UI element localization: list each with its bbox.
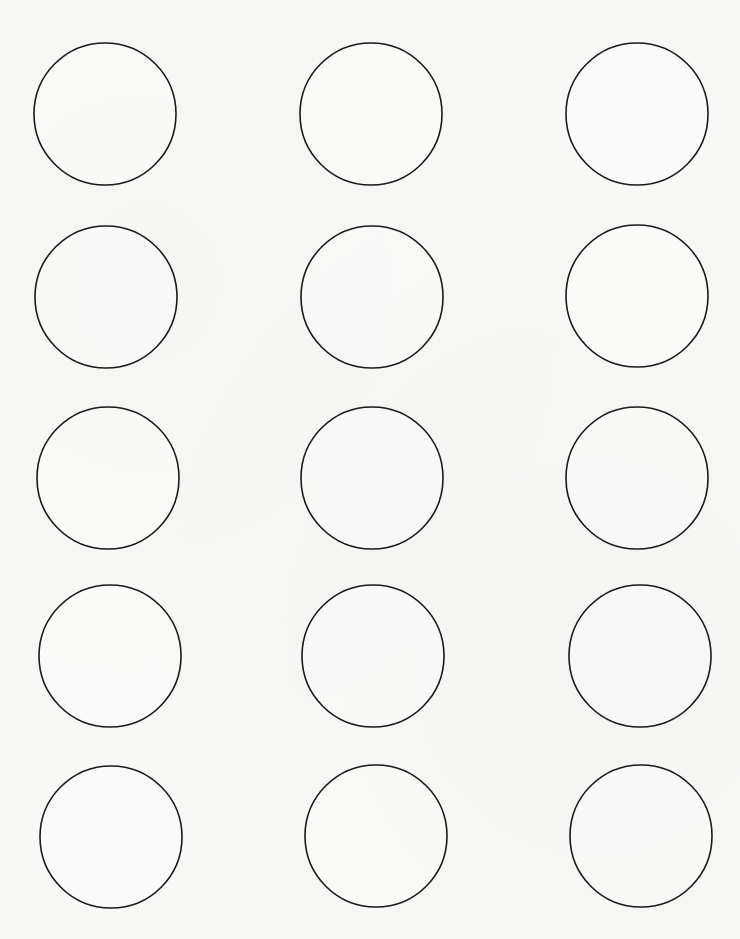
round-label-r4-c1	[39, 585, 181, 727]
round-label-r1-c2	[300, 43, 442, 185]
round-label-r2-c2	[301, 226, 443, 368]
round-label-r4-c2	[302, 585, 444, 727]
round-label-r3-c1	[37, 407, 179, 549]
round-label-r5-c1	[40, 766, 182, 908]
round-label-r4-c3	[569, 585, 711, 727]
round-label-r2-c1	[35, 226, 177, 368]
label-grid	[0, 0, 740, 939]
round-label-layer	[34, 43, 712, 908]
round-label-r5-c2	[305, 765, 447, 907]
label-sheet-page	[0, 0, 740, 939]
round-label-r5-c3	[570, 765, 712, 907]
round-label-r3-c3	[566, 407, 708, 549]
round-label-r1-c1	[34, 43, 176, 185]
round-label-r2-c3	[566, 225, 708, 367]
round-label-r3-c2	[301, 407, 443, 549]
round-label-r1-c3	[566, 43, 708, 185]
